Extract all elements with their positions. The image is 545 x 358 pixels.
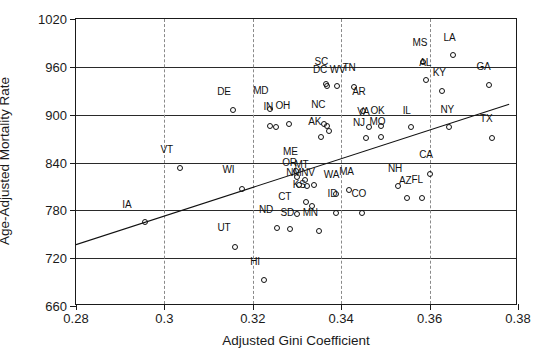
gridline-horizontal xyxy=(76,115,516,116)
data-point xyxy=(423,77,429,83)
data-point xyxy=(239,186,245,192)
data-point-label: MN xyxy=(303,208,318,218)
gridline-vertical xyxy=(430,19,431,304)
data-point xyxy=(303,199,309,205)
y-tick-label: 1020 xyxy=(38,12,67,27)
data-point xyxy=(378,134,384,140)
data-point xyxy=(420,59,426,65)
data-point xyxy=(334,83,340,89)
data-point-label: IN xyxy=(263,102,273,112)
gridline-horizontal xyxy=(76,67,516,68)
data-point-label: SD xyxy=(281,208,295,218)
x-tick-label: 0.36 xyxy=(417,311,442,326)
plot-area: 66072078084090096010200.280.30.320.340.3… xyxy=(75,18,517,305)
y-tick-mark xyxy=(70,67,76,68)
data-point xyxy=(274,225,280,231)
data-point xyxy=(309,203,315,209)
data-point-label: UT xyxy=(218,223,231,233)
data-point-label: NC xyxy=(311,100,325,110)
data-point xyxy=(489,135,495,141)
data-point-label: KS xyxy=(293,180,306,190)
data-point-label: ME xyxy=(283,147,298,157)
data-point-label: CA xyxy=(419,150,433,160)
data-point xyxy=(323,81,329,87)
data-point xyxy=(177,165,183,171)
y-tick-mark xyxy=(70,258,76,259)
data-point xyxy=(324,123,330,129)
trendline-layer xyxy=(76,19,516,304)
data-point xyxy=(446,124,452,130)
data-point-label: CT xyxy=(278,192,291,202)
y-tick-mark xyxy=(70,115,76,116)
y-tick-label: 780 xyxy=(45,203,67,218)
data-point-label: WA xyxy=(324,170,339,180)
data-point xyxy=(304,183,310,189)
data-point-label: MS xyxy=(413,38,428,48)
y-axis-title: Age-Adjusted Mortality Rate xyxy=(0,77,12,245)
scatter-plot-figure: Age-Adjusted Mortality Rate Adjusted Gin… xyxy=(0,0,545,358)
data-point xyxy=(293,168,299,174)
gridline-horizontal xyxy=(76,258,516,259)
data-point-label: DE xyxy=(217,87,231,97)
y-tick-label: 720 xyxy=(45,251,67,266)
x-tick-label: 0.3 xyxy=(155,311,173,326)
y-tick-mark xyxy=(70,19,76,20)
data-point-label: SC xyxy=(315,57,329,67)
x-tick-label: 0.32 xyxy=(240,311,265,326)
data-point xyxy=(333,191,339,197)
data-point-label: IA xyxy=(122,200,131,210)
gridline-horizontal xyxy=(76,210,516,211)
data-point xyxy=(267,106,273,112)
x-tick-mark xyxy=(430,304,431,310)
data-point-label: NH xyxy=(388,164,402,174)
data-point xyxy=(486,82,492,88)
data-point-label: ID xyxy=(328,189,338,199)
data-point-label: CO xyxy=(352,189,367,199)
data-point xyxy=(408,124,414,130)
data-point-label: KY xyxy=(433,68,446,78)
data-point-label: NV xyxy=(301,168,315,178)
x-tick-mark xyxy=(164,304,165,310)
data-point-label: NM xyxy=(286,168,301,178)
data-point xyxy=(302,177,308,183)
data-point-label: TX xyxy=(480,114,492,124)
data-point xyxy=(351,84,357,90)
data-point-label: AZ xyxy=(399,176,411,186)
data-point xyxy=(360,108,366,114)
data-point xyxy=(294,174,300,180)
data-point-label: MD xyxy=(253,86,268,96)
data-point xyxy=(286,121,292,127)
x-tick-label: 0.38 xyxy=(505,311,530,326)
data-point xyxy=(287,226,293,232)
x-axis-title: Adjusted Gini Coefficient xyxy=(75,333,517,348)
gridline-vertical xyxy=(253,19,254,304)
data-point xyxy=(363,135,369,141)
x-tick-mark xyxy=(253,304,254,310)
gridline-horizontal xyxy=(76,163,516,164)
data-point-label: FL xyxy=(412,175,423,185)
data-point xyxy=(142,219,148,225)
data-point xyxy=(450,52,456,58)
data-point xyxy=(318,134,324,140)
data-point xyxy=(294,211,300,217)
y-tick-label: 960 xyxy=(45,59,67,74)
y-tick-mark xyxy=(70,163,76,164)
data-point-label: AR xyxy=(352,87,366,97)
data-point xyxy=(395,183,401,189)
data-point xyxy=(296,182,302,188)
data-point xyxy=(419,195,425,201)
data-points-layer xyxy=(76,19,516,304)
data-point xyxy=(404,195,410,201)
x-tick-label: 0.34 xyxy=(329,311,354,326)
gridline-vertical xyxy=(164,19,165,304)
y-tick-mark xyxy=(70,210,76,211)
data-point xyxy=(316,228,322,234)
point-labels-layer: IAVTDEWIUTHINDSDCTMDKSMNMEORMTNMNVINOHSC… xyxy=(76,19,516,304)
y-tick-label: 840 xyxy=(45,155,67,170)
data-point-label: VT xyxy=(160,145,172,155)
data-point xyxy=(230,107,236,113)
x-tick-label: 0.28 xyxy=(63,311,88,326)
data-point xyxy=(326,128,332,134)
data-point-label: NJ xyxy=(353,118,365,128)
data-point xyxy=(346,187,352,193)
